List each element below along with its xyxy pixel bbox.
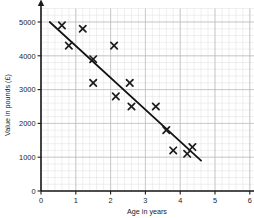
- x-tick-label: 4: [178, 196, 182, 205]
- x-axis-title: Age in years: [127, 207, 167, 216]
- x-tick-label: 2: [109, 196, 113, 205]
- y-tick-label: 1000: [19, 153, 35, 162]
- scatter-chart: 0123456 010002000300040005000 Age in yea…: [0, 0, 254, 218]
- chart-background: [0, 0, 254, 218]
- y-tick-label: 2000: [19, 119, 35, 128]
- chart-svg: 0123456 010002000300040005000 Age in yea…: [0, 0, 254, 218]
- y-tick-label: 4000: [19, 52, 35, 61]
- y-tick-label: 5000: [19, 18, 35, 27]
- x-tick-label: 5: [213, 196, 217, 205]
- y-tick-label: 3000: [19, 85, 35, 94]
- x-tick-label: 1: [74, 196, 78, 205]
- x-tick-label: 3: [143, 196, 147, 205]
- x-tick-label: 0: [39, 196, 43, 205]
- x-tick-label: 6: [248, 196, 252, 205]
- y-tick-label: 0: [31, 187, 35, 196]
- y-axis-title: Value in pounds (£): [3, 74, 12, 136]
